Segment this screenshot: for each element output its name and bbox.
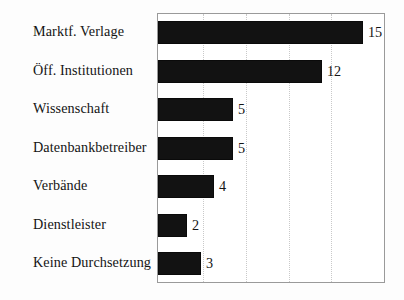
bar (158, 175, 214, 198)
bar (158, 98, 233, 121)
category-label: Marktf. Verlage (33, 20, 124, 43)
category-label: Keine Durchsetzung (33, 251, 151, 274)
bar (158, 214, 187, 237)
bar-value-label: 4 (219, 175, 226, 198)
bar (158, 21, 363, 44)
gridline-vertical (289, 14, 291, 282)
gridline-vertical (246, 14, 248, 282)
bar-value-label: 2 (192, 214, 199, 237)
category-label: Datenbankbetreiber (33, 136, 147, 159)
category-label: Verbände (33, 174, 87, 197)
bar-value-label: 15 (368, 21, 382, 44)
category-label: Wissenschaft (33, 97, 109, 120)
bar-value-label: 5 (238, 98, 245, 121)
category-axis-labels: Marktf. Verlage Öff. Institutionen Wisse… (0, 13, 157, 283)
category-label: Öff. Institutionen (33, 59, 133, 82)
plot-area: 15 12 5 5 4 2 3 (157, 13, 385, 283)
bar-value-label: 3 (206, 252, 213, 275)
bar (158, 60, 322, 83)
bar-value-label: 12 (327, 60, 341, 83)
bar-value-label: 5 (238, 137, 245, 160)
category-label: Dienstleister (33, 213, 106, 236)
gridline-vertical (331, 14, 333, 282)
bar-chart: Marktf. Verlage Öff. Institutionen Wisse… (0, 0, 404, 300)
bar (158, 137, 233, 160)
bar (158, 252, 201, 275)
